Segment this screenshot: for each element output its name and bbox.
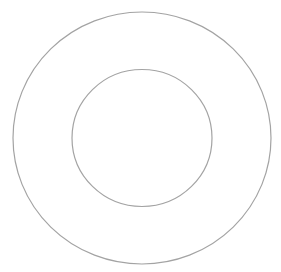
inner-circle <box>72 70 212 207</box>
outer-circle <box>13 12 271 264</box>
concentric-circles-diagram <box>0 0 281 272</box>
